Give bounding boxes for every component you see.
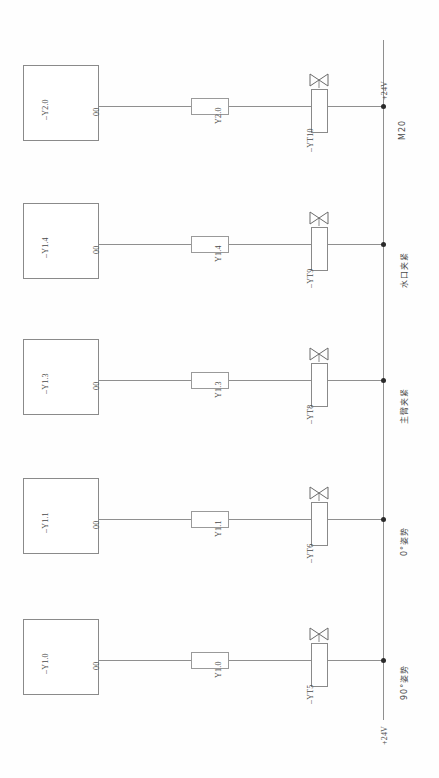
wire-number-label: Y1.1 xyxy=(214,520,223,537)
wire-number-label: Y2.0 xyxy=(214,107,223,124)
rail-junction-node xyxy=(381,517,386,522)
wire-number-box xyxy=(191,236,229,253)
rail-label-top: +24V xyxy=(380,81,389,100)
solenoid-valve-body[interactable] xyxy=(311,643,328,687)
valve-actuator-icon xyxy=(308,485,330,501)
valve-label: –YT5 xyxy=(306,685,315,704)
circuit-wire xyxy=(99,244,384,245)
circuit-wire xyxy=(99,660,384,661)
circuit-function-label: 90°姿势 xyxy=(398,665,409,700)
schematic-sheet: +24V +24V –Y2.0 00 Y2.0 –YT10 M20 –Y1.4 … xyxy=(0,0,439,778)
valve-actuator-icon xyxy=(308,210,330,226)
output-block[interactable] xyxy=(23,619,99,695)
valve-actuator-icon xyxy=(308,346,330,362)
solenoid-valve-body[interactable] xyxy=(311,502,328,546)
rail-junction-node xyxy=(381,242,386,247)
output-port-label: 00 xyxy=(92,662,101,670)
rail-junction-node xyxy=(381,378,386,383)
circuit-wire xyxy=(99,106,384,107)
solenoid-valve-body[interactable] xyxy=(311,227,328,271)
output-port-label: 00 xyxy=(92,382,101,390)
rail-junction-node xyxy=(381,658,386,663)
circuit-function-label: M20 xyxy=(398,120,407,140)
solenoid-valve-body[interactable] xyxy=(311,89,328,133)
valve-label: –YT8 xyxy=(306,405,315,424)
output-port-label: 00 xyxy=(92,108,101,116)
output-block-label: –Y2.0 xyxy=(41,99,50,120)
wire-number-box xyxy=(191,511,229,528)
wire-number-label: Y1.3 xyxy=(214,381,223,398)
circuit-function-label: 水口夹紧 xyxy=(398,252,409,288)
solenoid-valve-body[interactable] xyxy=(311,363,328,407)
circuit-wire xyxy=(99,519,384,520)
wire-number-label: Y1.4 xyxy=(214,245,223,262)
valve-actuator-icon xyxy=(308,626,330,642)
valve-label: –YT9 xyxy=(306,269,315,288)
wire-number-box xyxy=(191,372,229,389)
output-block[interactable] xyxy=(23,65,99,141)
wire-number-label: Y1.0 xyxy=(214,661,223,678)
output-block[interactable] xyxy=(23,339,99,415)
output-block-label: –Y1.3 xyxy=(41,373,50,394)
wire-number-box xyxy=(191,98,229,115)
output-block-label: –Y1.0 xyxy=(41,653,50,674)
output-port-label: 00 xyxy=(92,521,101,529)
output-block-label: –Y1.4 xyxy=(41,237,50,258)
circuit-function-label: 主臂夹紧 xyxy=(398,388,409,424)
circuit-wire xyxy=(99,380,384,381)
valve-label: –YT6 xyxy=(306,544,315,563)
valve-label: –YT10 xyxy=(306,128,315,152)
rail-label-bottom: +24V xyxy=(380,726,389,745)
valve-actuator-icon xyxy=(308,72,330,88)
output-block[interactable] xyxy=(23,478,99,554)
output-port-label: 00 xyxy=(92,246,101,254)
rail-junction-node xyxy=(381,104,386,109)
circuit-function-label: 0°姿势 xyxy=(398,527,409,556)
wire-number-box xyxy=(191,652,229,669)
output-block-label: –Y1.1 xyxy=(41,512,50,533)
output-block[interactable] xyxy=(23,203,99,279)
